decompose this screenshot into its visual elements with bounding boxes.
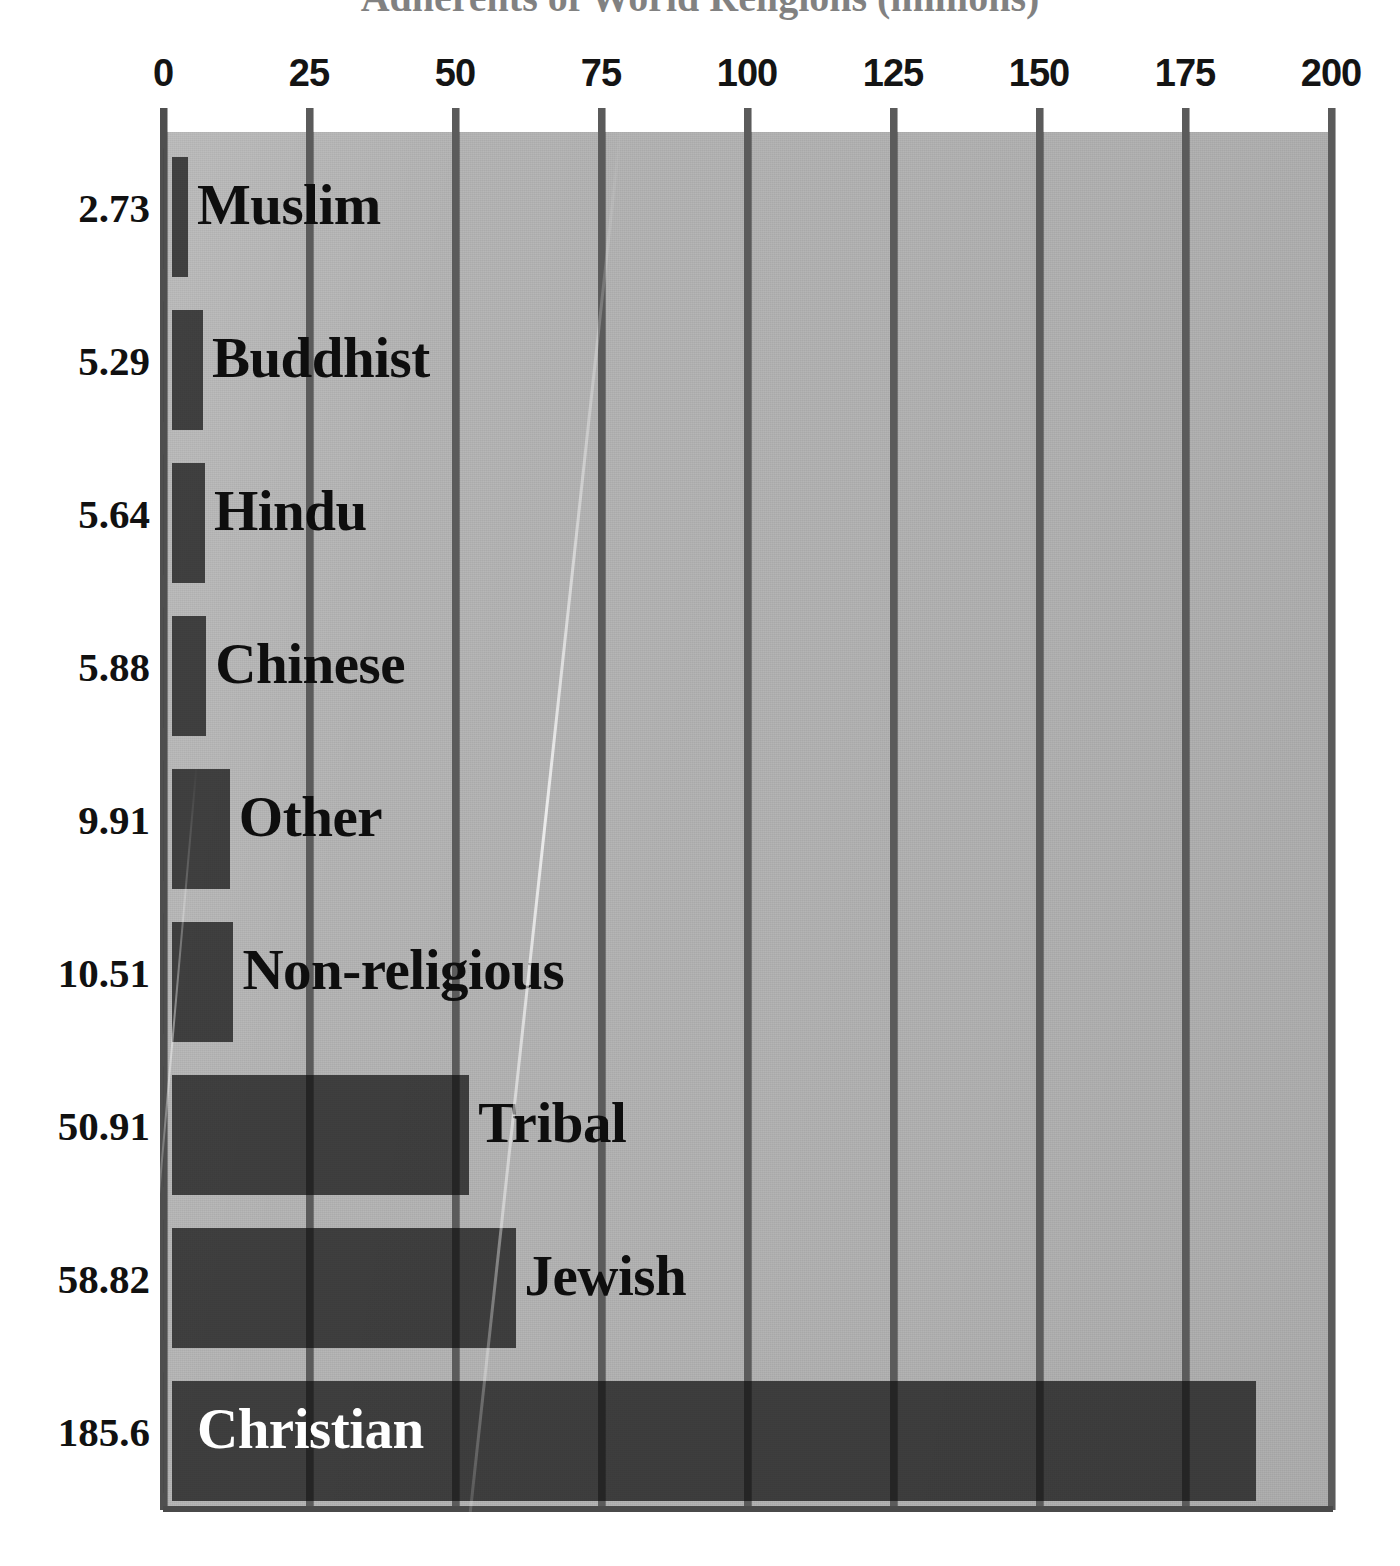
bar-category-label: Hindu	[214, 478, 367, 543]
bar-shadow	[172, 310, 203, 430]
bar-fill	[163, 301, 164, 422]
bar[interactable]	[163, 607, 197, 727]
bar-category-label: Jewish	[525, 1243, 687, 1308]
chart-title: Adherents of World Religions (millions)	[0, 0, 1400, 21]
x-tick-label-175: 175	[1155, 52, 1215, 94]
bar[interactable]	[163, 1066, 460, 1186]
bar-value-label: 9.91	[78, 796, 150, 844]
bar-value-label: 2.73	[78, 184, 150, 232]
bar[interactable]	[163, 148, 179, 268]
bar-category-label: Buddhist	[212, 325, 430, 390]
bar-shadow	[172, 616, 206, 736]
bar-row: 9.91Other	[0, 744, 1400, 897]
bar-fill	[163, 1219, 164, 1340]
x-tick-label-125: 125	[863, 52, 923, 94]
bar-shadow	[172, 922, 233, 1042]
bar-row: 2.73Muslim	[0, 132, 1400, 285]
bar-category-label: Non-religious	[242, 937, 564, 1002]
bar-fill	[163, 607, 164, 728]
x-tick-label-200: 200	[1301, 52, 1361, 94]
bar-fill	[163, 454, 164, 575]
bar-category-label: Christian	[197, 1396, 424, 1461]
bar[interactable]	[163, 454, 196, 574]
x-tick-label-75: 75	[581, 52, 621, 94]
bar-fill	[163, 913, 164, 1034]
bar-fill	[163, 760, 164, 881]
bar-shadow	[172, 157, 188, 277]
bar-row: 50.91Tribal	[0, 1049, 1400, 1202]
bar-shadow	[172, 463, 205, 583]
bar-row: 185.6Christian	[0, 1355, 1400, 1508]
bar[interactable]	[163, 913, 224, 1033]
bar-row: 10.51Non-religious	[0, 896, 1400, 1049]
bar-value-label: 5.88	[78, 643, 150, 691]
bar-fill	[163, 1066, 164, 1187]
bar-value-label: 58.82	[58, 1255, 150, 1303]
bar-shadow	[172, 1075, 469, 1195]
bar-value-label: 50.91	[58, 1102, 150, 1150]
bar-category-label: Chinese	[215, 631, 405, 696]
bar-row: 5.29Buddhist	[0, 285, 1400, 438]
bar-row: 5.64Hindu	[0, 438, 1400, 591]
x-tick-label-150: 150	[1009, 52, 1069, 94]
bar-fill	[163, 1372, 164, 1493]
bar[interactable]	[163, 760, 221, 880]
bar-shadow	[172, 769, 230, 889]
bar-row: 5.88Chinese	[0, 591, 1400, 744]
x-tick-label-50: 50	[435, 52, 475, 94]
x-axis-tick-labels: 0255075100125150175200	[0, 52, 1400, 98]
bar-category-label: Other	[239, 784, 382, 849]
bar[interactable]	[163, 1219, 507, 1339]
x-tick-label-25: 25	[289, 52, 329, 94]
bar-value-label: 10.51	[58, 949, 150, 997]
bar-chart: Adherents of World Religions (millions) …	[0, 0, 1400, 1566]
x-tick-label-100: 100	[717, 52, 777, 94]
bar-category-label: Tribal	[478, 1090, 626, 1155]
x-tick-label-0: 0	[153, 52, 173, 94]
bar-value-label: 5.29	[78, 337, 150, 385]
bar-category-label: Muslim	[197, 172, 381, 237]
bar-value-label: 185.6	[58, 1408, 150, 1456]
bar-fill	[163, 148, 164, 269]
bar-shadow	[172, 1228, 516, 1348]
bar-row: 58.82Jewish	[0, 1202, 1400, 1355]
bar-value-label: 5.64	[78, 490, 150, 538]
bar[interactable]	[163, 301, 194, 421]
